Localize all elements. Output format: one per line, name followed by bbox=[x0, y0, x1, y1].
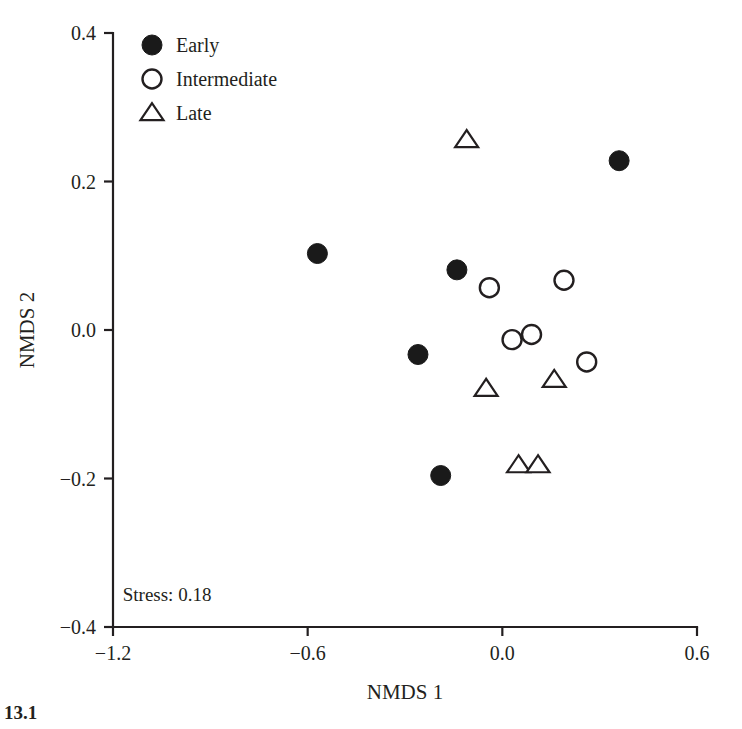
y-axis-title: NMDS 2 bbox=[15, 292, 39, 368]
data-point-early bbox=[408, 345, 428, 365]
y-tick-label: −0.2 bbox=[60, 468, 96, 490]
data-point-late bbox=[507, 455, 530, 472]
data-point-late bbox=[475, 379, 498, 396]
data-point-intermediate bbox=[554, 271, 573, 290]
legend-label-early: Early bbox=[176, 34, 219, 57]
data-point-intermediate bbox=[480, 278, 499, 297]
x-tick-label: −0.6 bbox=[290, 642, 326, 664]
data-point-intermediate bbox=[577, 352, 596, 371]
legend-marker-intermediate bbox=[143, 70, 162, 89]
nmds-ordination-figure: −1.2−0.60.00.6−0.4−0.20.00.20.4NMDS 1NMD… bbox=[0, 0, 742, 729]
data-point-intermediate bbox=[503, 330, 522, 349]
legend-label-intermediate: Intermediate bbox=[176, 68, 277, 90]
x-tick-label: 0.6 bbox=[685, 642, 710, 664]
data-point-early bbox=[609, 151, 629, 171]
data-point-early bbox=[307, 244, 327, 264]
y-tick-label: 0.0 bbox=[71, 319, 96, 341]
y-tick-label: −0.4 bbox=[60, 616, 96, 638]
legend-marker-late bbox=[141, 103, 164, 120]
y-tick-label: 0.2 bbox=[71, 171, 96, 193]
data-point-intermediate bbox=[522, 325, 541, 344]
data-point-late bbox=[455, 130, 478, 147]
y-tick-label: 0.4 bbox=[71, 22, 96, 44]
data-point-late bbox=[527, 455, 550, 472]
legend-marker-early bbox=[142, 35, 162, 55]
x-axis-title: NMDS 1 bbox=[367, 680, 443, 700]
legend-label-late: Late bbox=[176, 102, 212, 124]
stress-annotation: Stress: 0.18 bbox=[123, 584, 212, 605]
data-point-early bbox=[431, 466, 451, 486]
data-point-early bbox=[447, 260, 467, 280]
data-point-late bbox=[543, 370, 566, 387]
figure-caption: 13.1 bbox=[4, 706, 37, 724]
nmds-scatter-plot: −1.2−0.60.00.6−0.4−0.20.00.20.4NMDS 1NMD… bbox=[0, 0, 742, 700]
x-tick-label: −1.2 bbox=[95, 642, 131, 664]
x-tick-label: 0.0 bbox=[490, 642, 515, 664]
